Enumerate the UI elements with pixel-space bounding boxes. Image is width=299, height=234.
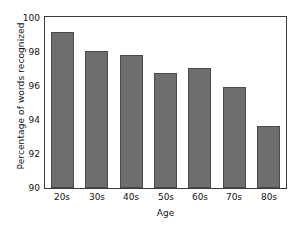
y-tick-label: 90 (18, 184, 40, 193)
bar-50s[interactable] (154, 73, 177, 188)
x-axis-tick-labels: 20s 30s 40s 50s 60s 70s 80s (45, 192, 286, 204)
y-tick-label: 100 (18, 14, 40, 23)
x-tick-label: 20s (45, 192, 79, 203)
y-tick-label: 96 (18, 82, 40, 91)
bar-chart-figure: Percentage of words recognized 100 98 96… (0, 0, 299, 234)
x-tick-label: 70s (217, 192, 251, 203)
bar-70s[interactable] (223, 87, 246, 188)
y-tick-label: 92 (18, 150, 40, 159)
x-tick-label: 50s (149, 192, 183, 203)
bar-30s[interactable] (85, 51, 108, 188)
y-axis-tick-labels: 100 98 96 94 92 90 (16, 0, 40, 234)
bar-20s[interactable] (51, 32, 74, 188)
x-tick-label: 60s (183, 192, 217, 203)
y-tick-label: 94 (18, 116, 40, 125)
bar-60s[interactable] (188, 68, 211, 188)
x-tick-label: 80s (252, 192, 286, 203)
x-tick-label: 30s (80, 192, 114, 203)
bars-group (45, 17, 286, 188)
bar-40s[interactable] (120, 55, 143, 188)
x-axis-title: Age (44, 208, 287, 219)
y-tick-label: 98 (18, 48, 40, 57)
bar-80s[interactable] (257, 126, 280, 188)
x-tick-label: 40s (114, 192, 148, 203)
